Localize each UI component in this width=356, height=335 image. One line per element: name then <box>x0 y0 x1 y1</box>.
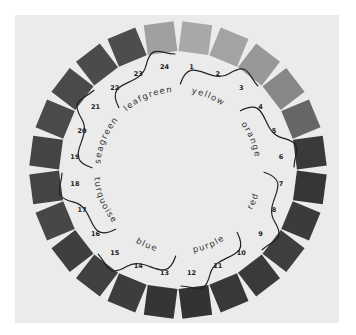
hue-number-16: 16 <box>91 230 101 238</box>
color-swatch-14 <box>108 273 147 312</box>
group-dividers <box>59 51 296 288</box>
group-label-leafgreen: leafgreen <box>121 84 173 113</box>
hue-number-6: 6 <box>279 153 284 161</box>
color-swatch-20 <box>36 100 75 139</box>
group-label-turquoise: turquoise <box>92 177 120 226</box>
swatch-ring <box>29 21 326 318</box>
hue-number-20: 20 <box>77 127 87 135</box>
color-swatch-17 <box>36 201 75 240</box>
hue-number-18: 18 <box>70 180 80 188</box>
color-swatch-6 <box>293 136 327 170</box>
hue-number-13: 13 <box>160 269 169 277</box>
hue-number-21: 21 <box>91 103 101 111</box>
hue-number-5: 5 <box>272 127 277 135</box>
hue-number-9: 9 <box>258 230 263 238</box>
group-label-blue: blue <box>135 235 160 253</box>
color-swatch-24 <box>144 21 178 55</box>
hue-number-19: 19 <box>70 153 80 161</box>
hue-number-24: 24 <box>160 63 170 71</box>
group-label-seagreen: seagreen <box>92 114 120 164</box>
color-swatch-7 <box>293 171 327 205</box>
group-label-orange: orange <box>239 119 263 158</box>
hue-number-23: 23 <box>134 70 143 78</box>
hue-number-2: 2 <box>216 70 221 78</box>
hue-number-8: 8 <box>272 206 277 214</box>
hue-numbers: 123456789101112131415161718192021222324 <box>70 63 283 277</box>
hue-number-1: 1 <box>189 63 194 71</box>
hue-number-14: 14 <box>134 262 144 270</box>
color-swatch-11 <box>209 273 248 312</box>
hue-number-10: 10 <box>237 249 247 257</box>
color-swatch-12 <box>179 285 213 319</box>
hue-number-12: 12 <box>187 269 196 277</box>
group-label-yellow: yellow <box>191 85 227 108</box>
color-swatch-2 <box>209 28 248 67</box>
color-wheel: 123456789101112131415161718192021222324 … <box>0 0 356 335</box>
color-swatch-8 <box>281 201 320 240</box>
group-labels: yelloworangeredpurpleblueturquoiseseagre… <box>92 84 263 254</box>
color-swatch-13 <box>144 285 178 319</box>
hue-number-11: 11 <box>213 262 223 270</box>
hue-number-4: 4 <box>258 103 263 111</box>
color-swatch-23 <box>108 28 147 67</box>
hue-number-17: 17 <box>77 206 86 214</box>
hue-number-3: 3 <box>239 84 244 92</box>
color-swatch-1 <box>179 21 213 55</box>
group-label-red: red <box>245 191 261 211</box>
color-swatch-5 <box>281 100 320 139</box>
group-label-purple: purple <box>192 233 227 255</box>
hue-number-7: 7 <box>279 180 284 188</box>
color-swatch-18 <box>29 171 63 205</box>
hue-number-15: 15 <box>110 249 120 257</box>
hue-number-22: 22 <box>110 84 119 92</box>
color-swatch-19 <box>29 136 63 170</box>
